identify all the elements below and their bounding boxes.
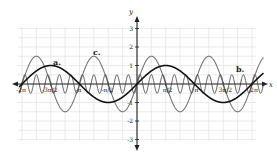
label-a: a.	[53, 57, 61, 67]
x-tick-label: -3π/2	[42, 86, 58, 93]
labels: 321-1-2-3-2π-3π/2-π-π/2π/2π3π/22πxya.c.b…	[16, 8, 273, 143]
x-tick-label: π/2	[163, 86, 173, 93]
y-tick-label: -3	[127, 136, 133, 143]
function-plot: 321-1-2-3-2π-3π/2-π-π/2π/2π3π/22πxya.c.b…	[0, 0, 277, 152]
x-tick-label: 2π	[250, 86, 258, 93]
x-tick-label: -π/2	[101, 86, 113, 93]
y-tick-label: 1	[129, 62, 133, 69]
label-b: b.	[236, 64, 245, 74]
x-tick-label: -π	[76, 86, 82, 93]
label-c: c.	[93, 47, 101, 57]
x-tick-label: π	[195, 86, 199, 93]
y-tick-label: -1	[127, 99, 133, 106]
y-tick-label: 3	[129, 25, 133, 32]
y-tick-label: -2	[127, 117, 133, 124]
y-axis-arrow-icon	[135, 16, 140, 22]
y-axis-label: y	[128, 8, 134, 16]
y-tick-label: 2	[129, 43, 133, 50]
y-axis-arrow-icon	[135, 145, 140, 151]
x-tick-label: 3π/2	[218, 86, 232, 93]
x-tick-label: -2π	[16, 86, 26, 93]
x-axis-label: x	[269, 81, 273, 89]
